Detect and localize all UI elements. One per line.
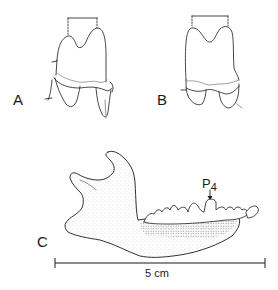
scale-bar-label: 5 cm	[145, 268, 169, 279]
tooth-subscript: 4	[211, 181, 217, 193]
panel-label-b: B	[157, 92, 167, 107]
panel-label-a: A	[13, 92, 23, 107]
panel-label-c: C	[37, 234, 48, 249]
figure: A B C P4 5 cm	[0, 0, 278, 290]
tooth-a-drawing	[45, 18, 113, 118]
tooth-b-drawing	[181, 16, 242, 108]
tooth-letter: P	[202, 176, 211, 191]
tooth-annotation-p4: P4	[202, 177, 217, 193]
mandible-drawing	[65, 151, 258, 257]
